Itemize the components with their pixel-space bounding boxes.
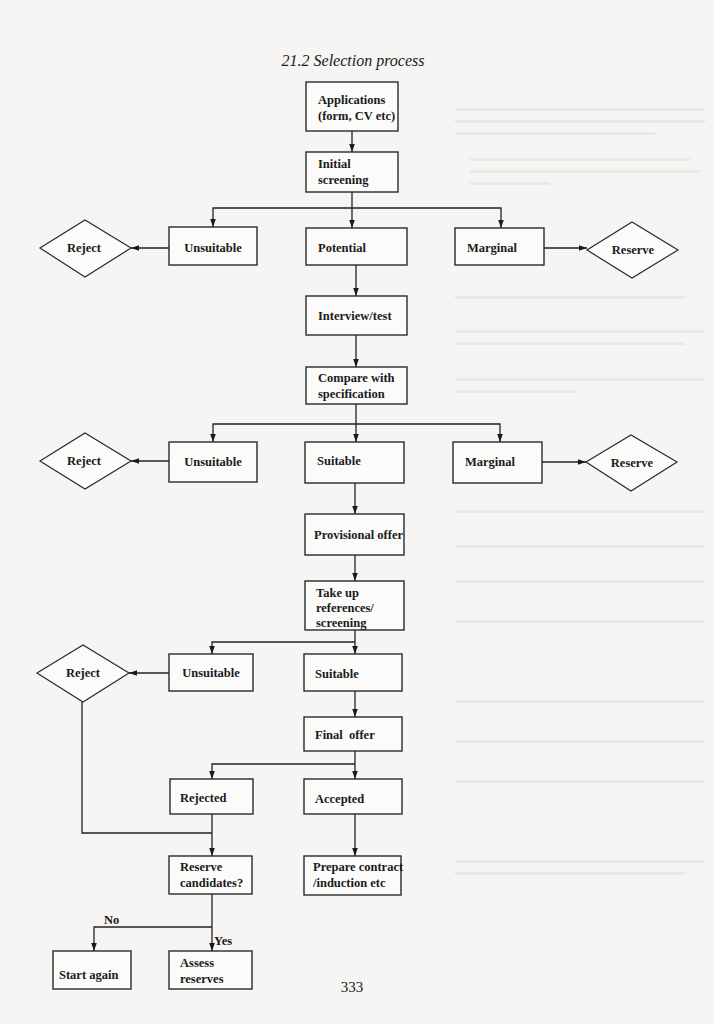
svg-text:/induction etc: /induction etc xyxy=(312,876,386,890)
node-reserve-2: Reserve xyxy=(586,435,677,491)
page: 21.2 Selection process N xyxy=(0,0,714,1024)
node-reserve-1: Reserve xyxy=(587,222,678,278)
svg-text:references/: references/ xyxy=(316,601,374,615)
svg-text:Potential: Potential xyxy=(318,241,366,255)
svg-text:Reject: Reject xyxy=(67,241,102,255)
node-assess-reserves: Assess reserves xyxy=(169,951,252,989)
node-potential: Potential xyxy=(306,228,407,265)
svg-text:Assess: Assess xyxy=(180,956,214,970)
node-start-again: Start again xyxy=(53,951,131,989)
svg-text:Reserve: Reserve xyxy=(611,456,654,470)
node-suitable-3: Suitable xyxy=(304,654,402,691)
svg-text:Unsuitable: Unsuitable xyxy=(182,666,240,680)
node-suitable-2: Suitable xyxy=(305,442,404,483)
svg-text:Reject: Reject xyxy=(66,666,101,680)
figure-title: 21.2 Selection process xyxy=(282,52,425,70)
svg-text:specification: specification xyxy=(318,387,385,401)
svg-text:Reject: Reject xyxy=(67,454,102,468)
svg-text:Provisional offer: Provisional offer xyxy=(314,528,403,542)
node-unsuitable-3: Unsuitable xyxy=(169,654,253,691)
svg-text:Reserve: Reserve xyxy=(180,860,223,874)
svg-text:Rejected: Rejected xyxy=(180,791,227,805)
node-marginal-2: Marginal xyxy=(453,442,542,483)
node-reject-1: Reject xyxy=(40,220,131,277)
svg-text:screening: screening xyxy=(318,173,369,187)
svg-text:Suitable: Suitable xyxy=(317,454,361,468)
node-marginal-1: Marginal xyxy=(455,228,544,265)
svg-text:Reserve: Reserve xyxy=(612,243,655,257)
svg-text:Initial: Initial xyxy=(318,157,351,171)
svg-text:Marginal: Marginal xyxy=(467,241,518,255)
svg-text:candidates?: candidates? xyxy=(180,876,243,890)
node-reject-3: Reject xyxy=(37,645,129,702)
selection-process-flowchart: 21.2 Selection process N xyxy=(0,0,714,1024)
svg-text:Unsuitable: Unsuitable xyxy=(184,241,242,255)
node-applications: Applications (form, CV etc) xyxy=(306,82,398,131)
node-compare-with-specification: Compare with specification xyxy=(306,367,407,404)
svg-text:Take up: Take up xyxy=(316,586,359,600)
svg-text:Applications: Applications xyxy=(318,93,386,107)
node-reserve-candidates: Reserve candidates? xyxy=(169,856,252,894)
node-rejected: Rejected xyxy=(170,779,253,814)
node-prepare-contract: Prepare contract /induction etc xyxy=(304,856,404,895)
svg-text:Prepare contract: Prepare contract xyxy=(313,860,404,874)
svg-text:Final offer: Final offer xyxy=(315,728,375,742)
svg-text:(form, CV etc): (form, CV etc) xyxy=(318,109,395,123)
edge-label-yes: Yes xyxy=(214,934,232,948)
bleed-through-texture xyxy=(455,108,705,875)
svg-text:Interview/test: Interview/test xyxy=(318,309,392,323)
svg-text:reserves: reserves xyxy=(180,972,224,986)
edge-label-no: No xyxy=(104,913,119,927)
svg-text:Suitable: Suitable xyxy=(315,667,359,681)
node-final-offer: Final offer xyxy=(304,717,402,751)
node-interview-test: Interview/test xyxy=(306,296,407,335)
svg-text:screening: screening xyxy=(316,616,367,630)
svg-text:Unsuitable: Unsuitable xyxy=(184,455,242,469)
page-number: 333 xyxy=(341,979,364,995)
node-initial-screening: Initial screening xyxy=(306,152,398,192)
svg-text:Accepted: Accepted xyxy=(315,792,364,806)
svg-text:Start again: Start again xyxy=(59,968,118,982)
node-take-up-references: Take up references/ screening xyxy=(305,581,404,630)
svg-text:Marginal: Marginal xyxy=(465,455,516,469)
svg-text:Compare with: Compare with xyxy=(318,371,395,385)
node-reject-2: Reject xyxy=(40,433,131,489)
node-accepted: Accepted xyxy=(304,779,402,814)
node-unsuitable-2: Unsuitable xyxy=(169,442,257,482)
node-provisional-offer: Provisional offer xyxy=(305,514,404,555)
node-unsuitable-1: Unsuitable xyxy=(169,227,257,265)
